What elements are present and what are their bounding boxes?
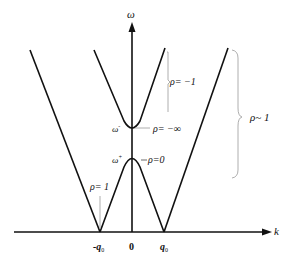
omega-axis-arrow-icon: [129, 22, 136, 32]
omega-axis-label: ω: [127, 8, 135, 20]
omega-minus-label: ω-: [112, 123, 120, 134]
svg-text:-q0: -q0: [93, 241, 104, 253]
rho-zero-label: ρ=0: [147, 154, 165, 165]
upper-branch-curve: [94, 48, 165, 128]
axes: [14, 22, 272, 236]
outer-branch: [30, 48, 228, 232]
rho-approx-one-brace: [232, 50, 242, 178]
rho-minus-inf-label: ρ= −∞: [152, 123, 181, 134]
rho-one-label: ρ= 1: [89, 181, 109, 192]
outer-left-line: [30, 50, 100, 232]
tick-neg-q0-sub: 0: [101, 247, 104, 253]
omega-plus-label: ω+: [112, 154, 122, 165]
rho-minus-one-label: ρ= −1: [169, 76, 196, 87]
k-axis-arrow-icon: [262, 229, 272, 236]
svg-text:q0: q0: [160, 241, 168, 253]
k-axis-label: k: [274, 225, 280, 237]
tick-neg-q0-label: -q: [93, 241, 101, 252]
tick-zero-label: 0: [129, 241, 134, 252]
omega-plus-sup: +: [118, 154, 122, 160]
tick-q0-sub: 0: [165, 247, 168, 253]
tick-neg-q0: -q0: [93, 241, 104, 253]
dispersion-diagram: ω k -q0 0 q0 ω- ω+ ρ= −∞ ρ=0 ρ= −1 ρ~ 1 …: [0, 0, 291, 258]
rho-approx-one-label: ρ~ 1: [249, 111, 269, 123]
tick-q0: q0: [160, 241, 168, 253]
omega-minus-sup: -: [118, 123, 120, 129]
